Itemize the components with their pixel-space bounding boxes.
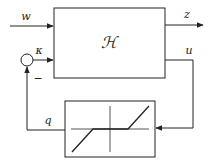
summing-junction (21, 54, 33, 66)
block-diagram: ℋ w z u κ − q (0, 0, 220, 165)
dead-zone-curve-icon (71, 106, 149, 152)
plant-label: ℋ (101, 33, 119, 52)
u-signal-line (156, 60, 193, 128)
w-label: w (21, 10, 31, 23)
u-label: u (185, 44, 192, 57)
q-label: q (44, 114, 51, 127)
kappa-label: κ (34, 44, 43, 57)
z-label: z (183, 8, 190, 21)
minus-sign: − (33, 72, 42, 85)
